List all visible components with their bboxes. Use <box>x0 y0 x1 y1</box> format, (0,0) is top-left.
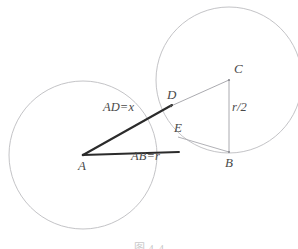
segment-EB <box>178 137 229 152</box>
geometry-figure: A B C D E AD=x AB=r r/2 图 4-4 <box>0 0 298 249</box>
vertex-dot-D <box>170 105 172 107</box>
point-label-D: D <box>167 88 176 101</box>
figure-canvas <box>0 0 298 249</box>
vertex-dot-A <box>82 154 85 157</box>
point-label-E: E <box>174 121 182 134</box>
point-label-A: A <box>78 159 86 172</box>
vertex-dot-B <box>228 151 230 153</box>
figure-caption: 图 4-4 <box>0 239 298 249</box>
annotation-r-over-2: r/2 <box>232 101 247 114</box>
point-label-B: B <box>225 156 233 169</box>
annotation-ad-equals-x: AD=x <box>103 101 134 114</box>
annotation-ab-equals-r: AB=r <box>131 150 160 163</box>
segment-DC <box>171 80 229 106</box>
point-label-C: C <box>234 62 243 75</box>
vertex-dot-C <box>228 79 230 81</box>
